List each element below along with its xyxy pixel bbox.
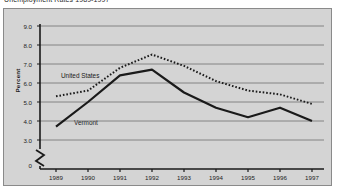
- axis-break-icon: [36, 150, 44, 166]
- gridlines: [40, 26, 324, 140]
- chart-panel: Percent 9.0 8.0 7.0 6.0 5.0 4.0 3.0 0 19…: [3, 8, 332, 186]
- chart-title: Unemployment Rates 1989-1997: [4, 0, 204, 6]
- chart-figure: Unemployment Rates 1989-1997 Percent 9.0…: [0, 0, 337, 194]
- plot-area: [4, 9, 331, 185]
- series-line-vermont: [56, 70, 312, 127]
